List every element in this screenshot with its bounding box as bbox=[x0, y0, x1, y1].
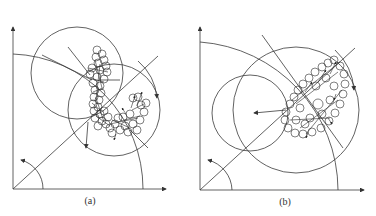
big-arc-b bbox=[200, 42, 338, 190]
diagram-svg bbox=[0, 0, 376, 216]
radial-line-a3 bbox=[130, 130, 148, 148]
figure: (a) (b) bbox=[0, 0, 376, 216]
particle-cluster-b bbox=[281, 56, 349, 138]
circle-large-b bbox=[233, 47, 359, 173]
diagonal-b bbox=[200, 48, 355, 190]
panel-b bbox=[200, 27, 364, 190]
circle-small-b bbox=[212, 75, 288, 151]
circle-lower-a bbox=[68, 64, 160, 156]
caption-b: (b) bbox=[279, 196, 291, 207]
arrow-down-a bbox=[86, 122, 88, 148]
panel-a bbox=[13, 27, 166, 189]
big-arc-a bbox=[13, 54, 143, 189]
radial-line-a2 bbox=[68, 47, 90, 75]
caption-a: (a) bbox=[84, 195, 95, 206]
diagonal-a bbox=[13, 56, 158, 189]
curved-arrow-a bbox=[138, 61, 157, 98]
arrow-left-b bbox=[254, 110, 286, 113]
